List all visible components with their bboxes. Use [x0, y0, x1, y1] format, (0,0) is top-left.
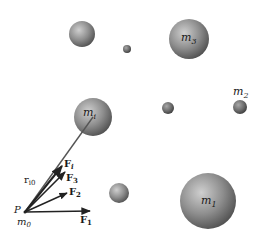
vector-F1 — [25, 211, 90, 212]
mass-m1: m1 — [180, 173, 236, 229]
point-P — [24, 211, 27, 214]
label-F2: F2 — [69, 186, 81, 199]
mass-m2: m2 — [233, 85, 249, 114]
sphere-a — [69, 21, 95, 47]
sphere-d — [109, 183, 129, 203]
label-Fi: Fi — [64, 158, 74, 171]
gravity-diagram: m3 mi m2 m1 ri0 Fi F3 F2 F1 P m0 — [0, 0, 268, 243]
svg-text:m2: m2 — [233, 85, 249, 100]
label-r-io: ri0 — [24, 174, 35, 187]
label-m0: m0 — [17, 216, 31, 229]
mass-m3: m3 — [169, 19, 209, 59]
label-F3: F3 — [66, 172, 78, 185]
vector-F3 — [25, 172, 65, 212]
label-P: P — [13, 204, 21, 215]
sphere-b — [123, 45, 131, 53]
sphere-c — [162, 102, 174, 114]
vector-Fi — [25, 166, 62, 212]
label-F1: F1 — [80, 214, 92, 227]
